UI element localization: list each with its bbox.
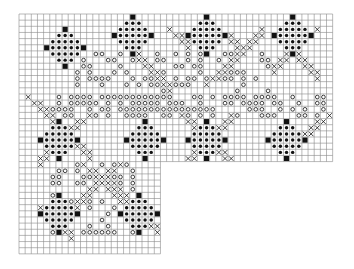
cross-stitch-chart bbox=[0, 0, 354, 269]
